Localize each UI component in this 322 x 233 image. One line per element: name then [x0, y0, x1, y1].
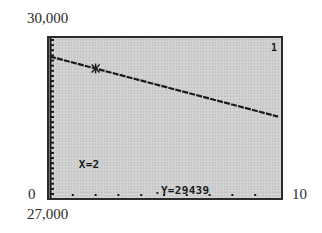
series-line-y1	[50, 57, 278, 117]
x-axis-tick	[231, 194, 233, 196]
x-axis-tick	[117, 194, 119, 196]
x-axis-max-label: 10	[292, 186, 307, 202]
x-axis-tick	[140, 194, 142, 196]
plot-number-indicator: 1	[271, 42, 277, 53]
x-axis-min-label: 0	[28, 186, 36, 202]
y-axis-max-label: 30,000	[27, 10, 68, 26]
calculator-graph-screen: 1 X=2 .Y=29439	[47, 36, 283, 200]
y-axis-min-label: 27,000	[27, 206, 68, 222]
x-axis-tick	[254, 194, 256, 196]
x-readout: X=2	[79, 158, 100, 171]
y-readout: .Y=29439	[154, 184, 209, 197]
trace-status-row: X=2 .Y=29439	[51, 145, 99, 197]
